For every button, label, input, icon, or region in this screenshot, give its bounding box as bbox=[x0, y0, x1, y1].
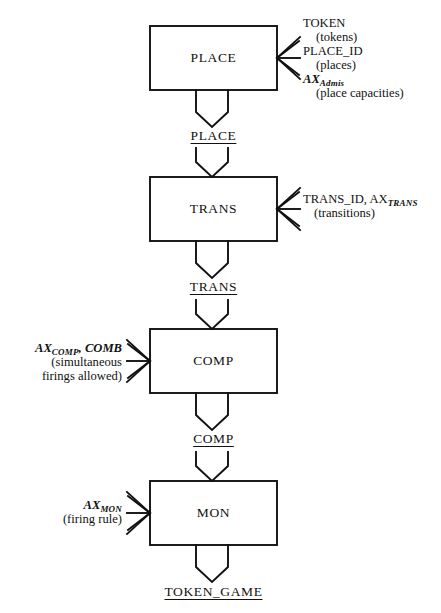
arrow-trans-to-comp bbox=[196, 300, 228, 329]
annotation-comp-ax-symbol: AX bbox=[35, 341, 52, 355]
diagram-canvas: PLACE TOKEN (tokens) PLACE_ID (places) A… bbox=[0, 0, 441, 613]
arrow-comp-to-mon bbox=[196, 452, 228, 481]
annotation-place-ax-subscript: Admis bbox=[320, 78, 345, 88]
box-label-trans: TRANS bbox=[150, 201, 277, 216]
annotation-place-ax-symbol: AX bbox=[303, 72, 320, 86]
arrow-place-to-trans bbox=[196, 148, 228, 177]
annotation-trans: TRANS_ID, AXTRANS (transitions) bbox=[303, 192, 418, 220]
annotation-comp: AXCOMP, COMB (simultaneous firings allow… bbox=[2, 341, 122, 383]
arrow-place-down bbox=[196, 90, 228, 127]
flow-label-trans: TRANS bbox=[150, 279, 277, 294]
input-arrow-place bbox=[277, 37, 300, 79]
flow-label-place: PLACE bbox=[150, 128, 277, 143]
annotation-comp-comb: , COMB bbox=[79, 341, 122, 355]
annotation-place-token-paren: (tokens) bbox=[303, 30, 404, 44]
annotation-mon: AXMON (firing rule) bbox=[2, 498, 122, 526]
annotation-place-placeid-main: PLACE_ID bbox=[303, 44, 404, 58]
annotation-place-placeid-paren: (places) bbox=[303, 58, 404, 72]
arrow-trans-down bbox=[196, 241, 228, 278]
annotation-place-ax-main: AXAdmis bbox=[303, 72, 404, 86]
box-label-comp: COMP bbox=[150, 353, 277, 368]
arrow-mon-down bbox=[196, 545, 228, 582]
flow-label-token-game: TOKEN_GAME bbox=[130, 584, 297, 599]
input-arrow-comp bbox=[127, 340, 150, 382]
annotation-trans-main: TRANS_ID, AXTRANS bbox=[303, 192, 418, 206]
annotation-comp-paren: (simultaneous bbox=[2, 355, 122, 369]
annotation-comp-ax-subscript: COMP bbox=[52, 347, 79, 357]
annotation-trans-ids: TRANS_ID, AX bbox=[303, 192, 388, 206]
annotation-comp-paren2: firings allowed) bbox=[2, 369, 122, 383]
annotation-mon-paren: (firing rule) bbox=[2, 512, 122, 526]
annotation-trans-paren: (transitions) bbox=[303, 206, 418, 220]
annotation-trans-subscript: TRANS bbox=[388, 198, 418, 208]
annotation-place-ax-paren: (place capacities) bbox=[303, 86, 404, 100]
box-label-place: PLACE bbox=[150, 50, 277, 65]
input-arrow-mon bbox=[127, 492, 150, 534]
flow-label-comp: COMP bbox=[150, 431, 277, 446]
annotation-place: TOKEN (tokens) PLACE_ID (places) AXAdmis… bbox=[303, 16, 404, 101]
annotation-place-token-main: TOKEN bbox=[303, 16, 404, 30]
input-arrow-trans bbox=[277, 188, 300, 230]
annotation-mon-ax-subscript: MON bbox=[100, 504, 122, 514]
annotation-mon-main: AXMON bbox=[2, 498, 122, 512]
annotation-comp-main: AXCOMP, COMB bbox=[2, 341, 122, 355]
arrow-comp-down bbox=[196, 393, 228, 430]
box-label-mon: MON bbox=[150, 505, 277, 520]
annotation-mon-ax-symbol: AX bbox=[84, 498, 101, 512]
